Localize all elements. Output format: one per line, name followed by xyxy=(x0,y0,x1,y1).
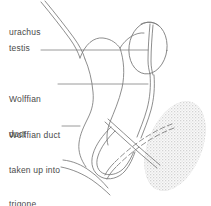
label-trigone-line-1: Wolffian duct xyxy=(9,130,60,142)
testis-oval xyxy=(126,20,170,76)
label-wolffian-duct-trigone: Wolffian duct taken up into trigone xyxy=(9,107,60,206)
wolffian-duct-line xyxy=(137,74,154,138)
anatomical-diagram: urachus testis Wolffian duct Wolffian du… xyxy=(0,0,211,206)
label-trigone-line-3: trigone xyxy=(9,199,60,206)
label-testis: testis xyxy=(9,43,30,55)
bladder-body xyxy=(61,33,144,195)
duct-loop xyxy=(92,127,135,179)
label-wolffian-duct-line-1: Wolffian xyxy=(9,94,41,106)
label-trigone-line-2: taken up into xyxy=(9,165,60,177)
trigone-shading xyxy=(140,90,211,206)
label-urachus: urachus xyxy=(9,27,41,39)
